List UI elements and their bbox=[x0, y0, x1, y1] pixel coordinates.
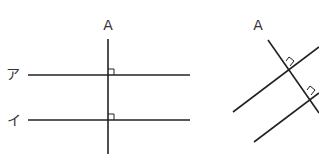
line-a-slanted bbox=[268, 40, 319, 113]
right-angle-mark-icon bbox=[108, 69, 114, 75]
lower-parallel-line bbox=[254, 93, 319, 142]
right-angle-mark-icon bbox=[307, 86, 315, 95]
right-label-a: A bbox=[253, 18, 263, 32]
right-angle-mark-icon bbox=[286, 57, 294, 66]
diagram-canvas bbox=[0, 0, 319, 161]
left-label-a-line: ア bbox=[6, 67, 20, 81]
right-figure bbox=[233, 40, 319, 142]
right-angle-mark-icon bbox=[108, 114, 114, 120]
left-figure bbox=[28, 39, 190, 154]
left-label-a: A bbox=[103, 18, 113, 32]
left-label-i-line: イ bbox=[7, 113, 21, 127]
